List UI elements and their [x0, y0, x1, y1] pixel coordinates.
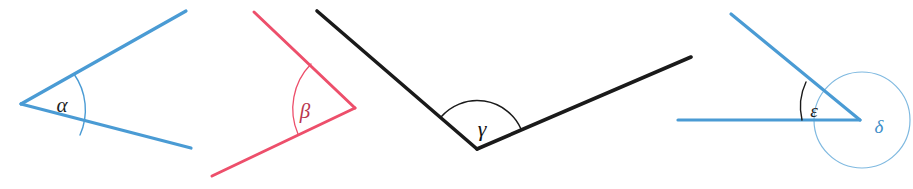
gamma-label: γ — [478, 116, 488, 141]
delta-label: δ — [875, 116, 885, 137]
gamma-ray-left — [317, 11, 477, 149]
alpha-ray-upper — [21, 11, 186, 104]
gamma-ray-right — [477, 57, 691, 149]
alpha-ray-lower — [21, 104, 191, 148]
beta-ray-lower — [212, 108, 355, 176]
beta-label: β — [299, 99, 311, 123]
alpha-label: α — [56, 93, 68, 117]
angle-group-alpha: α — [21, 11, 191, 148]
beta-ray-upper — [254, 12, 355, 108]
angles-figure: α β γ δ ε — [0, 0, 913, 189]
epsilon-label: ε — [810, 100, 818, 121]
angle-group-gamma: γ — [317, 11, 691, 149]
angle-group-beta: β — [212, 12, 355, 176]
angle-group-epsilon: ε — [678, 14, 860, 121]
epsilon-ray-upper — [731, 14, 860, 120]
alpha-angle-arc — [74, 74, 85, 135]
epsilon-angle-arc — [800, 82, 806, 120]
angles-svg: α β γ δ ε — [0, 0, 913, 189]
